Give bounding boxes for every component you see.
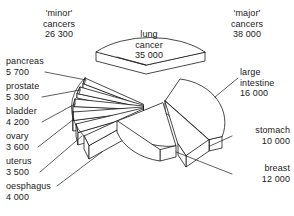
slice-value-breast: 12 000 bbox=[228, 174, 290, 185]
slice-label-stomach: stomach 10 000 bbox=[228, 125, 290, 146]
slice-label-breast-text: breast bbox=[228, 163, 290, 174]
group-minor-label: 'minor' bbox=[16, 8, 102, 19]
group-major-total: 38 000 bbox=[206, 29, 288, 40]
slice-label-ovary: ovary 3 600 bbox=[6, 131, 29, 152]
slice-label-prostate: prostate 5 300 bbox=[6, 81, 39, 102]
slice-label-lung-cancer-line2: cancer bbox=[118, 40, 180, 51]
group-minor-total: 26 300 bbox=[16, 29, 102, 40]
slice-label-bladder: bladder 4 200 bbox=[6, 106, 37, 127]
slice-label-pancreas: pancreas 5 700 bbox=[6, 56, 44, 77]
slice-label-stomach-text: stomach bbox=[228, 125, 290, 136]
slice-label-bladder-text: bladder bbox=[6, 106, 37, 117]
slice-label-ovary-text: ovary bbox=[6, 131, 29, 142]
slice-value-stomach: 10 000 bbox=[228, 136, 290, 147]
slice-label-uterus: uterus 3 500 bbox=[6, 156, 32, 177]
slice-value-large-intestine: 16 000 bbox=[240, 88, 290, 99]
group-heading-minor: 'minor' cancers 26 300 bbox=[16, 8, 102, 40]
slice-value-bladder: 4 200 bbox=[6, 117, 37, 128]
slice-label-pancreas-text: pancreas bbox=[6, 56, 44, 67]
slice-value-ovary: 3 600 bbox=[6, 142, 29, 153]
group-major-label: 'major' bbox=[206, 8, 288, 19]
leader-pancreas bbox=[45, 72, 86, 80]
slice-label-lung-cancer-line1: lung bbox=[118, 29, 180, 40]
slice-label-oesphagus: oesphagus 4 000 bbox=[6, 181, 51, 202]
pie-chart-figure: 'minor' cancers 26 300 'major' cancers 3… bbox=[0, 0, 294, 216]
slice-label-prostate-text: prostate bbox=[6, 81, 39, 92]
group-minor-label2: cancers bbox=[16, 19, 102, 30]
slice-label-breast: breast 12 000 bbox=[228, 163, 290, 184]
slice-label-uterus-text: uterus bbox=[6, 156, 32, 167]
group-heading-major: 'major' cancers 38 000 bbox=[206, 8, 288, 40]
slice-label-oesphagus-text: oesphagus bbox=[6, 181, 51, 192]
slice-value-lung-cancer: 35 000 bbox=[118, 50, 180, 61]
group-major-label2: cancers bbox=[206, 19, 288, 30]
slice-value-pancreas: 5 700 bbox=[6, 67, 44, 78]
slice-value-prostate: 5 300 bbox=[6, 92, 39, 103]
slice-label-lung-cancer: lung cancer 35 000 bbox=[118, 29, 180, 61]
slice-label-large-intestine: large intestine 16 000 bbox=[240, 67, 290, 99]
slice-value-oesphagus: 4 000 bbox=[6, 192, 51, 203]
slice-label-large-intestine-line2: intestine bbox=[240, 78, 290, 89]
slice-value-uterus: 3 500 bbox=[6, 167, 32, 178]
slice-label-large-intestine-line1: large bbox=[240, 67, 290, 78]
